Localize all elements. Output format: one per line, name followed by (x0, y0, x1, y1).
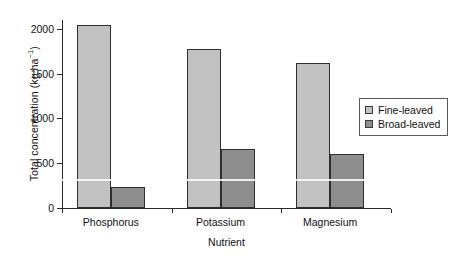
x-axis-tick-mark (62, 209, 63, 213)
legend-item-label: Broad-leaved (378, 118, 440, 130)
bar (296, 63, 330, 208)
x-axis-tick-mark (172, 209, 173, 213)
y-axis-tick-label: 2000 (20, 23, 54, 35)
bar (330, 154, 364, 208)
legend-item: Broad-leaved (365, 117, 440, 131)
y-axis-tick-labels: 0500100015002000 (14, 0, 54, 261)
bar (221, 149, 255, 208)
y-axis-tick-label: 0 (20, 202, 54, 214)
x-axis-category-label: Phosphorus (56, 216, 166, 228)
plot-area (62, 20, 391, 208)
legend-item-label: Fine-leaved (378, 104, 433, 116)
bar-chart-figure: Total concentration (kg ha−1) 0500100015… (0, 0, 472, 261)
x-axis-category-label: Magnesium (275, 216, 385, 228)
y-axis-tick-label: 1500 (20, 68, 54, 80)
x-axis-tick-labels: PhosphorusPotassiumMagnesium (62, 216, 391, 232)
x-axis-tick-mark (281, 209, 282, 213)
chart-legend: Fine-leavedBroad-leaved (359, 98, 448, 136)
x-axis-tick-marks (62, 209, 391, 214)
bar (187, 49, 221, 208)
x-axis-category-label: Potassium (166, 216, 276, 228)
y-axis-tick-label: 1000 (20, 112, 54, 124)
legend-swatch-icon (365, 120, 373, 128)
x-axis-title: Nutrient (62, 236, 391, 248)
legend-swatch-icon (365, 106, 373, 114)
legend-item: Fine-leaved (365, 103, 440, 117)
bar (77, 25, 111, 208)
bar (111, 187, 145, 208)
y-axis-tick-label: 500 (20, 157, 54, 169)
x-axis-tick-mark (391, 209, 392, 213)
